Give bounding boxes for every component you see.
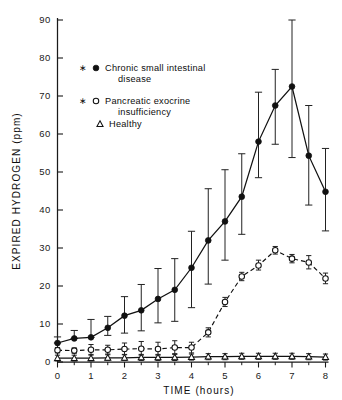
data-point-open-circle [289, 256, 295, 262]
data-point-open-circle [222, 299, 228, 305]
data-point-filled-circle [239, 194, 245, 200]
x-tick-label: 8 [323, 370, 329, 381]
data-point-filled-circle [138, 307, 144, 313]
data-point-filled-circle [88, 334, 94, 340]
y-tick-label: 50 [39, 166, 50, 177]
data-point-filled-circle [122, 313, 128, 319]
data-point-open-circle [105, 347, 111, 353]
y-tick-label: 90 [39, 14, 50, 25]
chart-figure: 0102030405060708090 012345678 EXPIRED HY… [0, 0, 342, 400]
data-point-filled-circle [55, 340, 61, 346]
x-tick-label: 6 [256, 370, 262, 381]
data-point-filled-circle [71, 336, 77, 342]
data-point-open-circle [273, 248, 279, 254]
y-tick-label: 40 [39, 204, 50, 215]
legend-asterisk-icon: ∗ [79, 96, 87, 106]
data-point-open-circle [155, 346, 161, 352]
data-point-open-circle [93, 98, 99, 104]
x-tick-label: 1 [88, 370, 94, 381]
y-tick-label: 10 [39, 318, 50, 329]
x-tick-label: 4 [189, 370, 195, 381]
y-tick-label: 60 [39, 128, 50, 139]
data-point-filled-circle [222, 219, 228, 225]
x-axis-title: TIME (hours) [163, 385, 235, 396]
data-point-filled-circle [289, 84, 295, 90]
x-tick-label: 7 [289, 370, 295, 381]
x-tick-label: 0 [55, 370, 61, 381]
y-tick-label: 70 [39, 90, 50, 101]
data-point-open-circle [206, 330, 212, 336]
data-point-open-circle [72, 348, 78, 354]
data-point-open-circle [256, 263, 262, 269]
data-point-open-circle [323, 276, 329, 282]
chart-legend: ∗Chronic small intestinaldisease∗Pancrea… [79, 63, 206, 129]
y-axis-title: EXPIRED HYDROGEN (ppm) [11, 112, 22, 270]
data-point-filled-circle [256, 139, 262, 145]
data-point-open-circle [122, 346, 128, 352]
data-point-filled-circle [323, 189, 329, 195]
expired-hydrogen-line-chart: 0102030405060708090 012345678 EXPIRED HY… [0, 0, 342, 400]
legend-item-label: Chronic small intestinal [105, 63, 205, 73]
y-tick-label: 80 [39, 52, 50, 63]
legend-item-label-continued: insufficiency [118, 107, 171, 117]
y-tick-label: 0 [45, 356, 51, 367]
y-tick-label: 30 [39, 242, 50, 253]
data-point-filled-circle [189, 265, 195, 271]
data-point-filled-circle [155, 296, 161, 302]
legend-asterisk-icon: ∗ [79, 63, 87, 73]
data-point-filled-circle [272, 103, 278, 109]
x-tick-label: 3 [155, 370, 161, 381]
data-point-filled-circle [105, 325, 111, 331]
data-point-open-circle [189, 345, 195, 351]
data-point-open-circle [55, 347, 61, 353]
data-point-open-circle [88, 347, 94, 353]
data-point-open-circle [239, 274, 245, 280]
y-axis-ticks: 0102030405060708090 [39, 14, 63, 367]
data-point-filled-circle [306, 153, 312, 159]
data-point-open-triangle [97, 121, 103, 127]
x-tick-label: 5 [222, 370, 228, 381]
legend-item-label: Pancreatic exocrine [105, 96, 190, 106]
x-tick-label: 2 [122, 370, 128, 381]
data-point-open-circle [306, 260, 312, 266]
chart-series [54, 353, 328, 361]
data-point-open-circle [139, 346, 145, 352]
y-tick-label: 20 [39, 280, 50, 291]
legend-item-label-continued: disease [118, 74, 151, 84]
data-point-filled-circle [172, 287, 178, 293]
legend-item-label: Healthy [109, 119, 142, 129]
data-point-filled-circle [93, 65, 99, 71]
x-axis-ticks: 012345678 [55, 362, 329, 381]
data-point-filled-circle [205, 238, 211, 244]
data-point-open-circle [172, 345, 178, 351]
